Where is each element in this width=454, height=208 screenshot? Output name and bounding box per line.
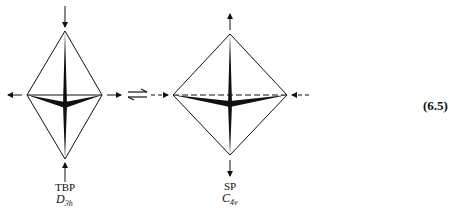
- tbp-symmetry-sub: 3h: [65, 199, 73, 208]
- tbp-symmetry-main: D: [56, 192, 65, 206]
- pseudorotation-diagram: [0, 0, 454, 208]
- sp-symmetry-main: C: [222, 191, 230, 205]
- sp-structure: [173, 34, 287, 155]
- sp-symmetry-sub: 4v: [230, 198, 238, 207]
- sp-symmetry-label: C4v: [222, 191, 238, 207]
- tbp-structure: [27, 31, 102, 159]
- equation-number: (6.5): [423, 98, 448, 114]
- equilibrium-arrows-icon: [128, 89, 147, 100]
- tbp-symmetry-label: D3h: [56, 192, 73, 208]
